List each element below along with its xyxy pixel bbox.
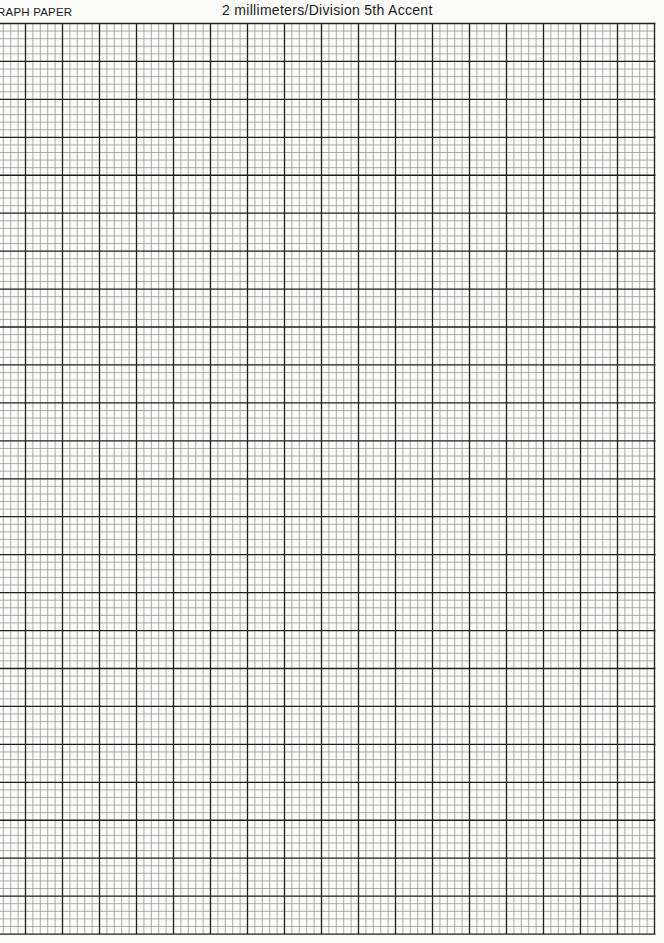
graph-grid xyxy=(0,0,664,943)
grid-canvas xyxy=(0,0,664,943)
